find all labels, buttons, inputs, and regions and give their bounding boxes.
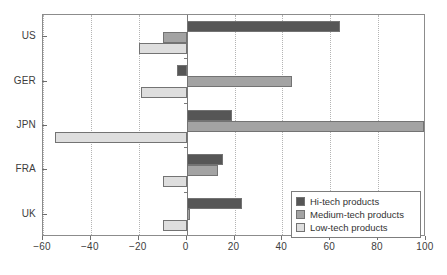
y-tick [42,169,47,170]
bar [187,76,292,87]
group-separator-tick [184,147,188,148]
x-tick [186,236,187,240]
x-tick [90,236,91,240]
y-tick [42,125,47,126]
x-tick [42,236,43,240]
group-separator-tick [184,58,188,59]
bar [141,87,186,98]
legend-item: Medium-tech products [296,208,416,221]
bar [187,198,242,209]
x-tick-label: −20 [118,241,158,252]
y-tick-label: JPN [0,119,36,130]
legend-swatch-medium-tech [296,210,305,219]
bar [163,176,187,187]
y-tick [42,36,47,37]
y-tick [42,81,47,82]
chart-legend: Hi-tech products Medium-tech products Lo… [291,191,421,238]
bar [163,32,187,43]
y-tick-label: US [0,30,36,41]
legend-swatch-hi-tech [296,197,305,206]
legend-label-medium-tech: Medium-tech products [310,209,404,220]
legend-label-low-tech: Low-tech products [310,222,388,233]
legend-label-hi-tech: Hi-tech products [310,196,379,207]
x-tick [234,236,235,240]
x-tick-label: −60 [22,241,62,252]
y-tick-label: GER [0,75,36,86]
x-tick-label: 40 [261,241,301,252]
bar [187,154,223,165]
group-separator-tick [184,103,188,104]
bar [163,220,187,231]
legend-item: Low-tech products [296,221,416,234]
y-tick-label: UK [0,208,36,219]
bar [177,65,187,76]
gridline [91,15,93,235]
x-tick-label: 80 [357,241,397,252]
bar [187,121,424,132]
legend-swatch-low-tech [296,223,305,232]
y-tick [42,214,47,215]
bar-chart: −60−40−20020406080100 USGERJPNFRAUK Hi-t… [0,0,447,275]
x-tick-label: 100 [405,241,445,252]
bar [187,21,340,32]
x-tick-label: −40 [70,241,110,252]
x-tick [138,236,139,240]
x-tick [281,236,282,240]
bar [187,165,218,176]
bar [55,132,187,143]
x-tick-label: 0 [166,241,206,252]
bar [187,110,232,121]
legend-item: Hi-tech products [296,195,416,208]
x-tick-label: 60 [309,241,349,252]
group-separator-tick [184,192,188,193]
x-tick [425,236,426,240]
bar [187,209,191,220]
y-tick-label: FRA [0,163,36,174]
x-tick-label: 20 [214,241,254,252]
bar [139,43,187,54]
